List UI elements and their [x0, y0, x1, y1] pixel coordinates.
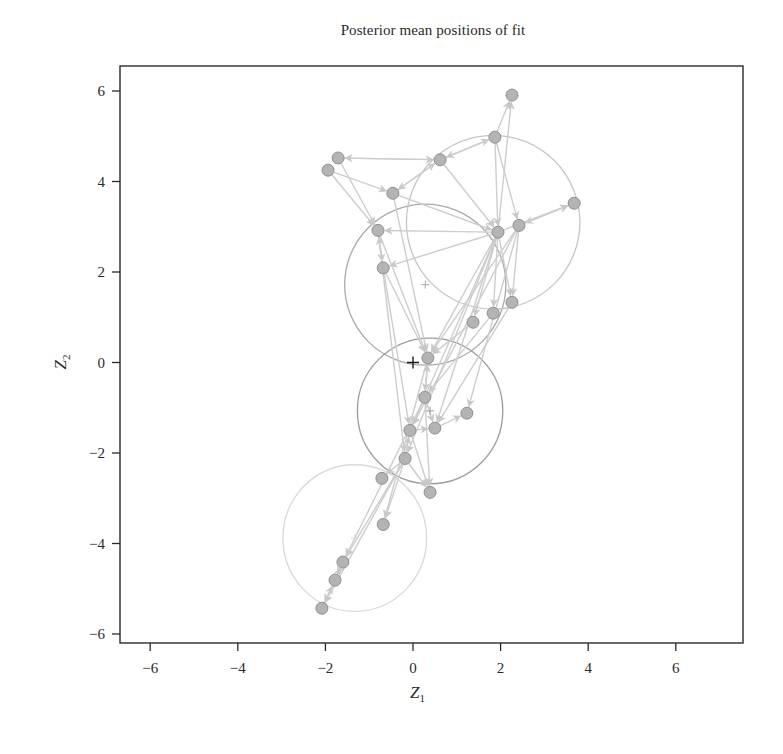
edge-arrow: [347, 464, 403, 556]
edge-arrow: [337, 568, 340, 574]
latent-space-plot: −6−4−20246 −6−4−20246 Z1 Z2: [0, 0, 783, 754]
node-point: [513, 219, 525, 231]
cluster-center-icon: [426, 407, 434, 415]
edge-arrow: [495, 143, 498, 225]
node-point: [329, 574, 341, 586]
x-tick-label: 0: [409, 660, 417, 676]
cluster-circles: [283, 135, 580, 611]
x-axis-label: Z1: [410, 683, 425, 704]
y-axis-label: Z2: [51, 355, 72, 370]
y-tick-label: −2: [89, 445, 105, 461]
edge-arrow: [398, 195, 491, 229]
node-point: [492, 226, 504, 238]
node-point: [487, 307, 499, 319]
node-point: [461, 407, 473, 419]
x-axis: −6−4−20246: [142, 643, 680, 676]
cluster-center-icon: [489, 218, 497, 226]
node-point: [316, 602, 328, 614]
edge-arrow: [344, 158, 433, 160]
y-tick-label: 0: [98, 355, 106, 371]
edge-arrow: [341, 163, 375, 224]
node-point: [424, 486, 436, 498]
node-point: [404, 424, 416, 436]
node-point: [467, 316, 479, 328]
x-tick-label: −6: [142, 660, 158, 676]
node-point: [489, 131, 501, 143]
node-point: [419, 391, 431, 403]
cluster-center-icon: [421, 281, 429, 289]
y-tick-label: −6: [89, 626, 105, 642]
node-point: [429, 422, 441, 434]
edge-arrow: [447, 139, 490, 157]
edge-arrow: [332, 175, 374, 225]
node-point: [506, 296, 518, 308]
node-point: [332, 152, 344, 164]
edge-arrow: [384, 274, 409, 424]
y-tick-label: 4: [98, 174, 106, 190]
origin-marker: [407, 357, 419, 369]
node-point: [372, 224, 384, 236]
cluster-center-icon: [351, 534, 359, 542]
edge-arrow: [496, 143, 517, 219]
node-point: [322, 164, 334, 176]
y-tick-label: 2: [98, 264, 106, 280]
node-point: [434, 154, 446, 166]
y-axis: −6−4−20246: [89, 83, 120, 642]
edge-arrow: [513, 231, 519, 295]
x-tick-label: −2: [317, 660, 333, 676]
node-point: [337, 556, 349, 568]
node-point: [422, 352, 434, 364]
edge-arrow: [499, 102, 512, 226]
edge-arrow: [334, 172, 387, 191]
edge-arrow: [399, 163, 436, 189]
x-tick-label: 6: [672, 660, 680, 676]
edge-arrow: [425, 403, 430, 485]
y-tick-label: 6: [98, 83, 106, 99]
node-point: [506, 89, 518, 101]
node-point: [377, 518, 389, 530]
edge-arrow: [497, 102, 509, 132]
node-point: [376, 472, 388, 484]
origin-cross-icon: [407, 357, 419, 369]
edge-arrow: [385, 364, 426, 518]
x-tick-label: 4: [584, 660, 592, 676]
node-point: [568, 197, 580, 209]
node-point: [399, 452, 411, 464]
node-point: [387, 187, 399, 199]
edge-arrow: [431, 237, 495, 351]
edge-arrow: [386, 273, 425, 351]
y-tick-label: −4: [89, 536, 105, 552]
x-tick-label: −4: [230, 660, 246, 676]
edge-arrow: [437, 238, 496, 422]
network-edges: [324, 102, 568, 603]
edge-arrow: [440, 416, 460, 425]
edge-arrow: [394, 199, 426, 351]
x-tick-label: 2: [497, 660, 505, 676]
node-point: [377, 262, 389, 274]
